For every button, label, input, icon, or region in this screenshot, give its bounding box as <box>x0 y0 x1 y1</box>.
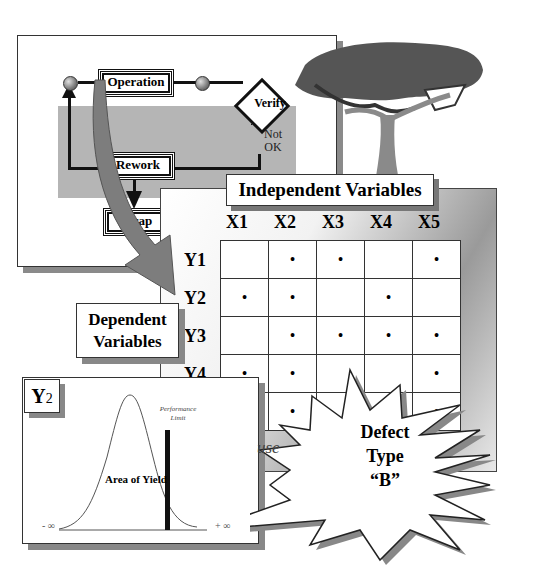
defect-type-label: Defect Type “B” <box>330 420 440 492</box>
matrix-cell: • <box>365 279 413 317</box>
matrix-cell <box>317 279 365 317</box>
variable-letter: Y <box>31 385 45 407</box>
variable-subscript: 2 <box>46 391 53 406</box>
independent-variables-title: Independent Variables <box>226 174 434 206</box>
matrix-cell: • <box>365 317 413 355</box>
matrix-cell: • <box>317 317 365 355</box>
performance-limit-label: Performance Limit <box>148 405 208 423</box>
dependent-label-line1: Dependent <box>77 309 178 331</box>
matrix-cell: • <box>413 241 461 279</box>
column-header-x4: X4 <box>357 212 405 233</box>
y2-variable-label: Y2 <box>24 379 60 413</box>
cause-partial-text: use <box>257 438 280 458</box>
matrix-cell <box>413 279 461 317</box>
column-header-x3: X3 <box>309 212 357 233</box>
matrix-row: • • • <box>221 279 461 317</box>
matrix-cell: • <box>269 279 317 317</box>
dependent-variables-box: Dependent Variables <box>76 303 179 358</box>
not-ok-label: Not OK <box>258 128 288 154</box>
defect-line3: “B” <box>330 468 440 492</box>
dependent-label-line2: Variables <box>77 331 178 353</box>
matrix-row: • • • • <box>221 317 461 355</box>
limit-label-line2: Limit <box>148 414 208 423</box>
matrix-cell: • <box>317 241 365 279</box>
matrix-cell: • <box>413 317 461 355</box>
matrix-row: • • • <box>221 241 461 279</box>
matrix-cell <box>221 241 269 279</box>
minus-infinity-label: - ∞ <box>42 520 55 531</box>
matrix-cell: • <box>221 279 269 317</box>
plus-infinity-label: + ∞ <box>215 520 230 531</box>
loop-back-line <box>68 96 71 170</box>
limit-label-line1: Performance <box>148 405 208 414</box>
defect-line2: Type <box>330 444 440 468</box>
column-header-x5: X5 <box>405 212 453 233</box>
row-header-y3: Y3 <box>180 326 210 347</box>
area-of-yield-label: Area of Yield <box>105 473 167 485</box>
matrix-cell <box>365 241 413 279</box>
matrix-cell <box>221 317 269 355</box>
defect-line1: Defect <box>330 420 440 444</box>
junction-node-icon <box>195 76 210 91</box>
curved-arrow-icon <box>80 70 190 310</box>
matrix-cell: • <box>269 241 317 279</box>
start-node-icon <box>63 76 78 91</box>
column-header-x1: X1 <box>213 212 261 233</box>
matrix-cell: • <box>269 317 317 355</box>
column-header-x2: X2 <box>261 212 309 233</box>
